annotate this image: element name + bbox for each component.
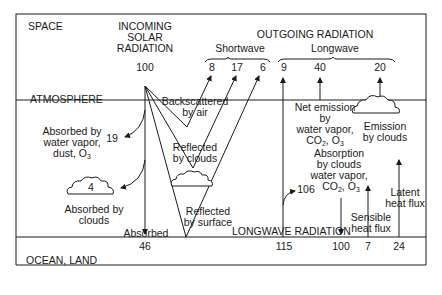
surface-latent-value: 24 xyxy=(390,241,408,252)
net-emission-label-4: CO2, O3 xyxy=(290,135,360,146)
space-label: SPACE xyxy=(28,21,63,32)
absorption-value: 106 xyxy=(296,184,316,195)
longwave-value-surface: 9 xyxy=(277,62,291,73)
surface-sensible-value: 7 xyxy=(362,241,374,252)
incoming-value: 100 xyxy=(130,62,160,73)
absorbed-vapor-value: 19 xyxy=(104,133,120,144)
longwave-value-clouds: 20 xyxy=(372,62,388,73)
absorbed-vapor-label-3: dust, O3 xyxy=(38,148,106,159)
longwave-radiation-label: LONGWAVE RADIATION xyxy=(232,226,351,237)
shortwave-value-surface: 6 xyxy=(256,62,270,73)
sensible-heat-label-2: heat flux xyxy=(348,223,394,234)
outgoing-title: OUTGOING RADIATION xyxy=(235,29,395,40)
reflected-surface-label-2: by surface xyxy=(178,217,238,228)
earth-energy-budget-diagram: SPACE ATMOSPHERE OCEAN, LAND INCOMING SO… xyxy=(0,0,442,295)
latent-heat-label-2: heat flux xyxy=(382,198,428,209)
atmosphere-label: ATMOSPHERE xyxy=(30,94,103,105)
surface-longwave-down-value: 100 xyxy=(330,241,352,252)
longwave-label: Longwave xyxy=(305,43,365,54)
shortwave-label: Shortwave xyxy=(210,43,270,54)
absorption-label-4: CO2, O3 xyxy=(314,181,368,192)
absorption-label-3: water vapor, xyxy=(305,170,373,181)
surface-absorbed-value: 46 xyxy=(136,241,154,252)
shortwave-value-air: 8 xyxy=(205,62,219,73)
emission-clouds-label-2: by clouds xyxy=(355,132,415,143)
backscattered-label-2: by air xyxy=(160,107,230,118)
absorbed-vapor-arrow xyxy=(125,110,145,137)
absorbed-label: Absorbed xyxy=(118,228,174,239)
longwave-value-vapor: 40 xyxy=(312,62,328,73)
reflected-clouds-label-2: by clouds xyxy=(165,153,225,164)
surface-longwave-up-value: 115 xyxy=(273,241,295,252)
absorbed-clouds-value: 4 xyxy=(84,182,98,193)
shortwave-value-clouds: 17 xyxy=(229,62,245,73)
surface-label: OCEAN, LAND xyxy=(26,255,97,266)
absorbed-clouds-arrow xyxy=(121,160,145,188)
incoming-title-3: RADIATION xyxy=(110,43,180,54)
cloud-reflected-icon xyxy=(171,171,212,186)
absorbed-clouds-label-2: clouds xyxy=(60,215,128,226)
space-region-frame xyxy=(16,14,426,100)
